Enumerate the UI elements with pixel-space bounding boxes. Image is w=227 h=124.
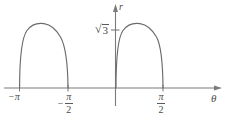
fraction-numerator: π (157, 92, 164, 102)
fraction-numerator: π (65, 92, 72, 102)
pi-symbol: π (15, 91, 20, 102)
minus-sign: − (57, 99, 64, 109)
r-axis-label: r (119, 2, 123, 12)
sqrt-sign: √ (95, 23, 102, 35)
plot-canvas (0, 0, 227, 124)
sqrt-glyph-group: √ 3 (95, 23, 109, 36)
sqrt-radicand: 3 (102, 24, 110, 36)
y-tick-label-sqrt3: √ 3 (95, 23, 109, 36)
theta-axis-label: θ (211, 93, 216, 104)
fraction-denominator: 2 (65, 105, 72, 115)
curve-right-branch (116, 23, 163, 88)
x-tick-label-neg-pi: −π (8, 92, 20, 102)
polar-curve-figure: r θ √ 3 −π − π 2 π 2 (0, 0, 227, 124)
minus-sign: − (8, 91, 15, 102)
y-axis-arrowhead (113, 4, 118, 12)
x-tick-label-neg-pi-over-2: − π 2 (57, 92, 73, 115)
fraction-denominator: 2 (158, 105, 165, 115)
fraction-stack: π 2 (65, 92, 73, 115)
fraction-stack: π 2 (157, 92, 165, 115)
curve-left-branch (20, 23, 68, 88)
x-tick-label-pi-over-2: π 2 (157, 92, 165, 115)
x-axis-arrowhead (214, 85, 222, 90)
